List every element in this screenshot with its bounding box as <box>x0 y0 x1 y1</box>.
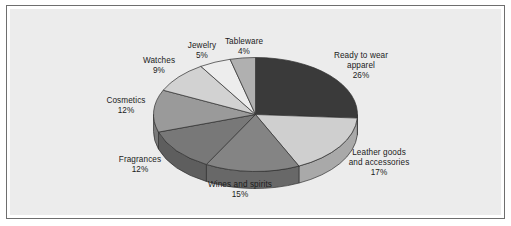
slice-label-line1: Ready to wear <box>334 51 388 60</box>
slice-label-line1: Wines and spirits <box>208 180 272 189</box>
slice-label-percent: 12% <box>106 165 174 175</box>
slice-label-line1: Fragrances <box>119 155 161 164</box>
slice-label-line2: apparel <box>347 61 375 70</box>
slice-label-leather-goods-and-accessories: Leather goods and accessories 17% <box>331 148 427 179</box>
slice-label-watches: Watches 9% <box>132 56 186 76</box>
slice-label-ready-to-wear-apparel: Ready to wear apparel 26% <box>318 51 404 82</box>
slice-label-line1: Watches <box>143 56 175 65</box>
slice-label-line1: Cosmetics <box>106 96 145 105</box>
slice-label-percent: 9% <box>132 66 186 76</box>
pie-chart: Ready to wear apparel 26% Leather goods … <box>0 0 511 226</box>
slice-label-percent: 15% <box>191 190 289 200</box>
slice-label-line1: Leather goods <box>352 148 406 157</box>
slice-label-line1: Tableware <box>225 37 263 46</box>
slice-label-percent: 17% <box>331 168 427 178</box>
slice-label-line1: Jewelry <box>188 41 216 50</box>
slice-label-percent: 4% <box>213 47 275 57</box>
figure-container: Ready to wear apparel 26% Leather goods … <box>0 0 511 226</box>
slice-label-fragrances: Fragrances 12% <box>106 155 174 175</box>
slice-label-wines-and-spirits: Wines and spirits 15% <box>191 180 289 200</box>
slice-label-tableware: Tableware 4% <box>213 37 275 57</box>
slice-label-cosmetics: Cosmetics 12% <box>92 96 160 116</box>
slice-label-line2: and accessories <box>349 158 410 167</box>
slice-label-percent: 12% <box>92 106 160 116</box>
slice-label-percent: 26% <box>318 71 404 81</box>
